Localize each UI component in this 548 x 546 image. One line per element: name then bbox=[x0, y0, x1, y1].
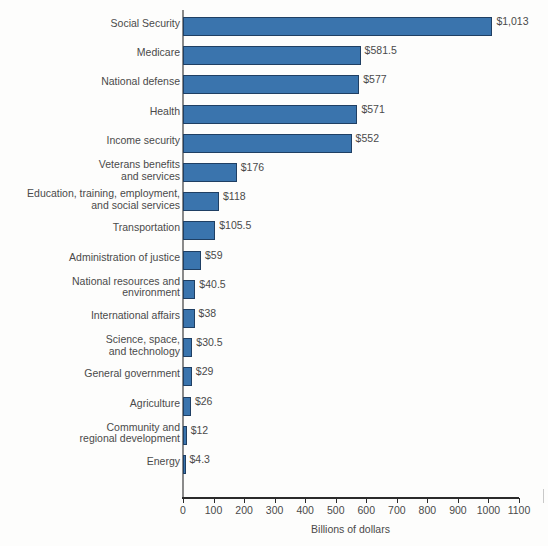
bar bbox=[183, 75, 359, 94]
bar-value-label: $571 bbox=[361, 103, 384, 116]
x-tick-mark bbox=[366, 498, 367, 503]
bar-row: Health$571 bbox=[0, 100, 548, 129]
bar-row: Medicare$581.5 bbox=[0, 41, 548, 70]
bar-value-label: $176 bbox=[241, 161, 264, 174]
category-label: Agriculture bbox=[4, 398, 180, 410]
bar-row: Agriculture$26 bbox=[0, 392, 548, 421]
bar-value-label: $38 bbox=[199, 307, 217, 320]
category-label: Medicare bbox=[4, 47, 180, 59]
bar-row: Administration of justice$59 bbox=[0, 246, 548, 275]
x-tick-mark bbox=[336, 498, 337, 503]
bar bbox=[183, 397, 191, 416]
x-tick-mark bbox=[519, 498, 520, 503]
x-tick-mark bbox=[397, 498, 398, 503]
category-label: Education, training, employment, and soc… bbox=[4, 188, 180, 211]
bar bbox=[183, 105, 357, 124]
category-label: Health bbox=[4, 106, 180, 118]
bar bbox=[183, 455, 186, 474]
bar-value-label: $4.3 bbox=[190, 453, 210, 466]
bar bbox=[183, 221, 215, 240]
bar bbox=[183, 426, 187, 445]
category-label: National defense bbox=[4, 76, 180, 88]
bar bbox=[183, 367, 192, 386]
bar-value-label: $581.5 bbox=[365, 44, 397, 57]
plot-area: Social Security$1,013Medicare$581.5Natio… bbox=[0, 0, 548, 546]
bar-row: Education, training, employment, and soc… bbox=[0, 187, 548, 216]
x-tick-mark bbox=[458, 498, 459, 503]
bar bbox=[183, 251, 201, 270]
bar-row: National defense$577 bbox=[0, 70, 548, 99]
bar-row: Science, space, and technology$30.5 bbox=[0, 333, 548, 362]
x-tick-mark bbox=[488, 498, 489, 503]
bar-value-label: $1,013 bbox=[496, 15, 528, 28]
bar-row: Income security$552 bbox=[0, 129, 548, 158]
bar bbox=[183, 163, 237, 182]
bar bbox=[183, 338, 192, 357]
category-label: Administration of justice bbox=[4, 252, 180, 264]
x-tick-label: 1100 bbox=[496, 504, 542, 516]
bar-chart-figure: Social Security$1,013Medicare$581.5Natio… bbox=[0, 0, 548, 546]
bar-row: Energy$4.3 bbox=[0, 450, 548, 479]
x-tick-mark bbox=[244, 498, 245, 503]
bar-value-label: $118 bbox=[223, 190, 246, 203]
axis-edge-mark bbox=[543, 489, 544, 503]
category-label: Community and regional development bbox=[4, 422, 180, 445]
bar bbox=[183, 17, 492, 36]
bar-value-label: $552 bbox=[356, 132, 379, 145]
bar bbox=[183, 309, 195, 328]
bar-value-label: $40.5 bbox=[199, 278, 225, 291]
category-label: Social Security bbox=[4, 18, 180, 30]
x-tick-mark bbox=[305, 498, 306, 503]
bar-value-label: $29 bbox=[196, 365, 214, 378]
bar bbox=[183, 134, 352, 153]
bar-value-label: $105.5 bbox=[219, 219, 251, 232]
category-label: Income security bbox=[4, 135, 180, 147]
bar-row: International affairs$38 bbox=[0, 304, 548, 333]
x-axis-line bbox=[182, 497, 519, 499]
category-label: National resources and environment bbox=[4, 276, 180, 299]
bar-row: National resources and environment$40.5 bbox=[0, 275, 548, 304]
bar-row: Transportation$105.5 bbox=[0, 216, 548, 245]
bar bbox=[183, 280, 195, 299]
bar-value-label: $12 bbox=[191, 424, 209, 437]
bar-value-label: $30.5 bbox=[196, 336, 222, 349]
category-label: Transportation bbox=[4, 222, 180, 234]
category-label: Veterans benefits and services bbox=[4, 159, 180, 182]
category-label: General government bbox=[4, 368, 180, 380]
bar-row: Community and regional development$12 bbox=[0, 421, 548, 450]
bar bbox=[183, 192, 219, 211]
x-tick-mark bbox=[427, 498, 428, 503]
bar bbox=[183, 46, 361, 65]
x-tick-mark bbox=[214, 498, 215, 503]
category-label: Energy bbox=[4, 456, 180, 468]
category-label: International affairs bbox=[4, 310, 180, 322]
bar-value-label: $26 bbox=[195, 395, 213, 408]
bar-row: General government$29 bbox=[0, 362, 548, 391]
category-label: Science, space, and technology bbox=[4, 334, 180, 357]
x-axis-title: Billions of dollars bbox=[182, 523, 519, 535]
x-tick-mark bbox=[275, 498, 276, 503]
bar-row: Veterans benefits and services$176 bbox=[0, 158, 548, 187]
bar-value-label: $577 bbox=[363, 73, 386, 86]
x-tick-mark bbox=[183, 498, 184, 503]
bar-row: Social Security$1,013 bbox=[0, 12, 548, 41]
bar-value-label: $59 bbox=[205, 249, 223, 262]
